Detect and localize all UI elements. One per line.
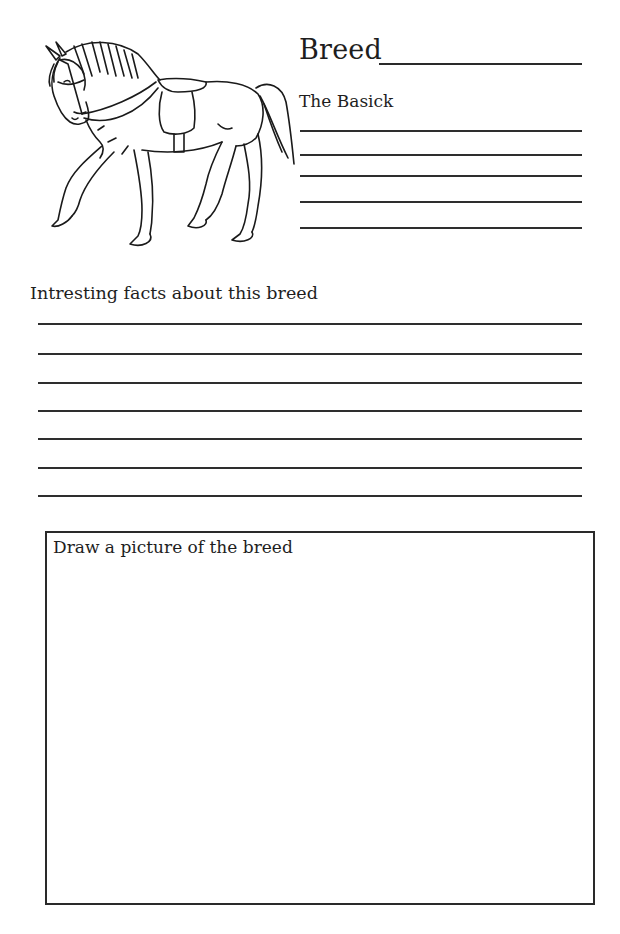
drawing-area[interactable] bbox=[45, 531, 595, 905]
basics-heading: The Basick bbox=[299, 89, 393, 113]
basics-writing-line[interactable] bbox=[300, 175, 582, 177]
facts-writing-line[interactable] bbox=[38, 438, 582, 440]
horse-icon bbox=[38, 34, 296, 254]
horse-illustration bbox=[38, 34, 296, 254]
facts-writing-line[interactable] bbox=[38, 382, 582, 384]
facts-writing-line[interactable] bbox=[38, 353, 582, 355]
facts-writing-line[interactable] bbox=[38, 410, 582, 412]
basics-writing-line[interactable] bbox=[300, 201, 582, 203]
breed-title: Breed bbox=[299, 30, 382, 70]
basics-writing-line[interactable] bbox=[300, 227, 582, 229]
facts-writing-line[interactable] bbox=[38, 495, 582, 497]
facts-writing-line[interactable] bbox=[38, 323, 582, 325]
facts-heading: Intresting facts about this breed bbox=[30, 280, 318, 306]
breed-name-line[interactable] bbox=[379, 63, 582, 65]
basics-writing-line[interactable] bbox=[300, 154, 582, 156]
facts-writing-line[interactable] bbox=[38, 467, 582, 469]
basics-writing-line[interactable] bbox=[300, 130, 582, 132]
drawing-heading: Draw a picture of the breed bbox=[53, 534, 293, 560]
